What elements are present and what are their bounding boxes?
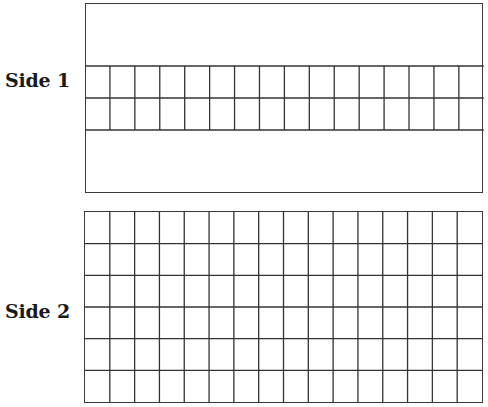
side-1-panel [85, 3, 483, 193]
side-1-grid [85, 66, 484, 130]
side-2-grid [85, 212, 482, 402]
side-2-panel [84, 211, 483, 403]
side-1-label: Side 1 [5, 69, 70, 91]
side-2-label: Side 2 [5, 300, 70, 322]
side-1-grid-band [85, 66, 484, 130]
